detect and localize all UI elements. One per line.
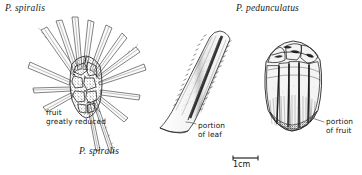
species-label-top-right: P. pedunculatus	[236, 3, 299, 13]
scale-bar-label: 1cm	[233, 160, 250, 169]
figure-spiralis-head	[28, 17, 146, 153]
species-label-bottom-left: P. spiralis	[79, 146, 119, 156]
plate-artwork	[0, 0, 362, 175]
annotation-portion-of-fruit: portion of fruit	[326, 118, 353, 135]
figure-leaf-portion	[160, 31, 231, 133]
annotation-portion-of-leaf: portion of leaf	[198, 122, 225, 139]
annotation-fruit-greatly-reduced: fruit greatly reduced	[46, 109, 106, 126]
figure-pedunculatus-syncarp	[265, 41, 322, 131]
illustration-plate: P. spiralis P. pedunculatus P. spiralis …	[0, 0, 362, 175]
species-label-top-left: P. spiralis	[5, 3, 45, 13]
